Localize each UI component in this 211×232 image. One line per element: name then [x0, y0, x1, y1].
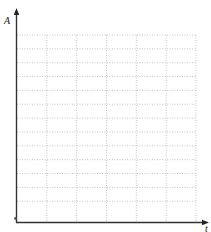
origin-marker-icon	[14, 217, 17, 220]
empty-axes-grid	[0, 0, 211, 232]
y-axis-arrow-icon	[14, 8, 19, 15]
y-axis-label: A	[4, 16, 10, 26]
x-axis-label: t	[205, 224, 208, 232]
grid-lines	[17, 35, 196, 222]
